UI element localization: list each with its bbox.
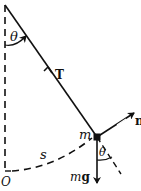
weight-label: mg bbox=[70, 170, 90, 184]
mass-block bbox=[94, 134, 101, 141]
arc-length-label: s bbox=[40, 147, 47, 162]
theta-top-label: θ bbox=[10, 29, 18, 44]
normal-label: n bbox=[135, 114, 141, 128]
normal-arrow-dash bbox=[117, 119, 126, 125]
theta-bottom-label: θ bbox=[99, 146, 106, 159]
pendulum-diagram: θ T s O mg θ n m bbox=[0, 0, 141, 191]
normal-arrow bbox=[97, 113, 134, 137]
arc-path-s bbox=[12, 138, 92, 171]
weight-label-g: g bbox=[81, 170, 90, 184]
weight-label-m: m bbox=[70, 170, 81, 184]
origin-label: O bbox=[1, 175, 11, 189]
tension-label: T bbox=[55, 68, 64, 82]
tension-arrowhead bbox=[44, 67, 52, 73]
mass-label: m bbox=[79, 127, 91, 142]
